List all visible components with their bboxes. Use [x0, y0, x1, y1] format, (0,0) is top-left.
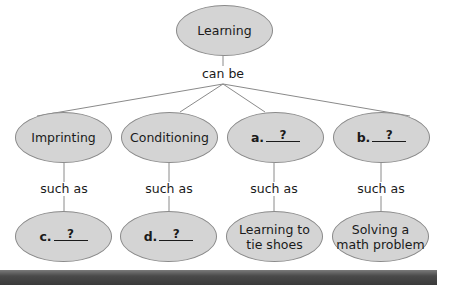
node-blank-d: d.? [120, 211, 217, 262]
blank-d-answer-line: ? [159, 228, 193, 241]
node-learning-label: Learning [197, 23, 251, 38]
connector-label-such-as-1: such as [24, 182, 104, 196]
blank-a-answer-line: ? [266, 129, 300, 142]
connector-label-can-be: can be [183, 67, 263, 81]
node-math-line2: math problem [336, 237, 424, 252]
blank-b-answer-line: ? [372, 129, 406, 142]
blank-d-prefix: d. [144, 229, 158, 244]
blank-a: a.? [251, 130, 300, 145]
connector-label-such-as-2: such as [129, 182, 209, 196]
blank-b: b.? [357, 130, 407, 145]
connector-label-such-as-4: such as [341, 182, 421, 196]
node-learning: Learning [176, 5, 273, 56]
blank-c: c.? [39, 229, 87, 244]
blank-b-question-mark: ? [386, 128, 393, 142]
bottom-bar [0, 270, 437, 285]
node-imprinting-label: Imprinting [31, 130, 96, 145]
node-conditioning-label: Conditioning [130, 130, 209, 145]
node-blank-c: c.? [15, 211, 112, 262]
blank-c-prefix: c. [39, 229, 51, 244]
connector-label-such-as-3: such as [234, 182, 314, 196]
blank-a-prefix: a. [251, 130, 264, 145]
blank-a-question-mark: ? [280, 128, 287, 142]
blank-d: d.? [144, 229, 194, 244]
node-blank-a: a.? [227, 112, 324, 163]
node-math-line1: Solving a [352, 222, 409, 237]
node-tie-shoes-line2: tie shoes [246, 237, 302, 252]
blank-b-prefix: b. [357, 130, 371, 145]
node-solving-math-problem: Solving a math problem [332, 211, 429, 262]
blank-c-answer-line: ? [54, 228, 88, 241]
node-conditioning: Conditioning [121, 112, 218, 163]
node-blank-b: b.? [333, 112, 430, 163]
blank-c-question-mark: ? [67, 227, 74, 241]
node-learning-to-tie-shoes: Learning to tie shoes [226, 211, 323, 262]
node-imprinting: Imprinting [15, 112, 112, 163]
node-tie-shoes-line1: Learning to [239, 222, 310, 237]
blank-d-question-mark: ? [173, 227, 180, 241]
